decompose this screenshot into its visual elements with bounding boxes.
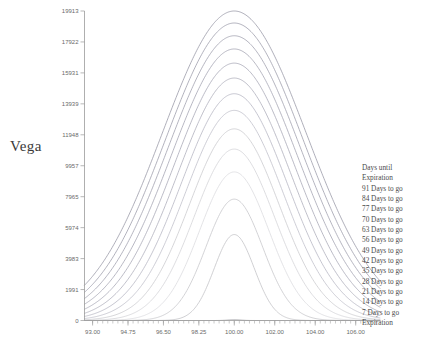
legend-item[interactable]: 77 Days to go bbox=[362, 204, 403, 214]
legend-item[interactable]: 70 Days to go bbox=[362, 215, 403, 225]
chart-canvas: 0199139835974796599571194813939159311792… bbox=[0, 0, 422, 350]
legend-entries: 91 Days to go84 Days to go77 Days to go7… bbox=[362, 184, 403, 194]
series-line bbox=[85, 129, 381, 320]
y-tick-label: 5974 bbox=[65, 225, 79, 231]
legend-item[interactable]: 21 Days to go bbox=[362, 287, 403, 297]
legend-item[interactable]: 56 Days to go bbox=[362, 235, 403, 245]
legend-item[interactable]: 14 Days to go bbox=[362, 297, 403, 307]
legend-item[interactable]: 7 Days to go bbox=[362, 308, 403, 318]
axes-group bbox=[85, 11, 381, 321]
x-tick-label: 104.00 bbox=[306, 329, 325, 335]
x-tick-label: 98.25 bbox=[191, 329, 207, 335]
series-line bbox=[85, 78, 381, 313]
y-tick-label: 15931 bbox=[62, 70, 79, 76]
legend-item[interactable]: Expiration bbox=[362, 318, 403, 328]
x-tick-label: 100.00 bbox=[225, 329, 244, 335]
series-line bbox=[85, 94, 381, 317]
legend-item[interactable]: 84 Days to go bbox=[362, 194, 403, 204]
y-tick-label: 0 bbox=[75, 318, 79, 324]
series-line bbox=[85, 11, 381, 285]
y-ticks-group: 0199139835974796599571194813939159311792… bbox=[62, 8, 85, 324]
x-tick-label: 93.00 bbox=[85, 329, 101, 335]
y-tick-label: 11948 bbox=[62, 132, 79, 138]
legend-item[interactable]: 91 Days to go bbox=[362, 184, 403, 194]
legend-item[interactable]: 63 Days to go bbox=[362, 225, 403, 235]
x-tick-label: 96.50 bbox=[156, 329, 172, 335]
y-tick-label: 17922 bbox=[62, 39, 79, 45]
y-tick-label: 3983 bbox=[65, 256, 79, 262]
legend-header-line1: Days until bbox=[362, 163, 403, 173]
legend-item[interactable]: 35 Days to go bbox=[362, 266, 403, 276]
legend-item[interactable]: 28 Days to go bbox=[362, 277, 403, 287]
legend-item[interactable]: 42 Days to go bbox=[362, 256, 403, 266]
x-tick-label: 106.00 bbox=[347, 329, 366, 335]
legend-header-line2: Expiration bbox=[362, 173, 403, 183]
x-tick-label: 102.00 bbox=[266, 329, 285, 335]
y-tick-label: 1991 bbox=[65, 287, 79, 293]
x-tick-label: 94.75 bbox=[121, 329, 137, 335]
legend: Days until Expiration 91 Days to go84 Da… bbox=[362, 163, 403, 194]
y-tick-label: 19913 bbox=[62, 8, 79, 14]
x-ticks-group: 93.0094.7596.5098.25100.00102.00104.0010… bbox=[85, 321, 376, 335]
y-tick-label: 13939 bbox=[62, 101, 79, 107]
vega-chart-screenshot: Vega 01991398359747965995711948139391593… bbox=[0, 0, 422, 350]
legend-item[interactable]: 49 Days to go bbox=[362, 246, 403, 256]
y-tick-label: 7965 bbox=[65, 194, 79, 200]
y-tick-label: 9957 bbox=[65, 163, 79, 169]
series-group bbox=[85, 11, 381, 321]
